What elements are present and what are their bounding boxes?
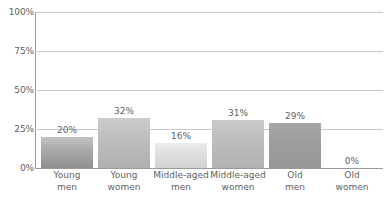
x-label-young-men: Young men [41,170,93,193]
bar-value-label-young-women: 32% [98,107,150,116]
y-tick-label-100: 100% [1,8,34,17]
x-label-young-men-line1: Young [41,170,93,182]
bar-old-men[interactable] [269,123,321,168]
bar-chart: 100% 75% 50% 25% 0% 20% 32% 16% [0,0,390,199]
x-label-middle-aged-women: Middle-aged women [208,170,268,193]
x-label-young-women-line2: women [98,182,150,194]
x-label-old-men-line2: men [269,182,321,194]
y-tick-label-0: 0% [1,164,34,173]
x-label-old-women-line1: Old [326,170,378,182]
y-tick-label-50: 50% [1,86,34,95]
x-label-young-men-line2: men [41,182,93,194]
plot-area: 20% 32% 16% 31% 29% 0% [35,12,383,168]
gridline-50 [35,90,383,91]
x-label-middle-aged-men-line2: men [151,182,211,194]
x-label-old-men-line1: Old [269,170,321,182]
bar-young-women[interactable] [98,118,150,168]
axis-baseline [35,168,383,169]
bar-middle-aged-women[interactable] [212,120,264,168]
gridline-100 [35,12,383,13]
bar-value-label-young-men: 20% [41,126,93,135]
bar-value-label-middle-aged-men: 16% [155,132,207,141]
x-label-young-women-line1: Young [98,170,150,182]
x-label-old-women-line2: women [326,182,378,194]
y-tick-label-75: 75% [1,47,34,56]
bar-young-men[interactable] [41,137,93,168]
x-label-middle-aged-women-line1: Middle-aged [208,170,268,182]
bar-value-label-old-men: 29% [269,112,321,121]
bar-value-label-middle-aged-women: 31% [212,109,264,118]
x-label-middle-aged-men-line1: Middle-aged [151,170,211,182]
x-label-young-women: Young women [98,170,150,193]
x-axis-category-labels: Young men Young women Middle-aged men Mi… [35,170,383,199]
y-tick-label-25: 25% [1,125,34,134]
x-label-old-men: Old men [269,170,321,193]
bar-value-label-old-women: 0% [326,157,378,166]
x-label-middle-aged-men: Middle-aged men [151,170,211,193]
x-label-old-women: Old women [326,170,378,193]
bar-middle-aged-men[interactable] [155,143,207,168]
gridline-75 [35,51,383,52]
x-label-middle-aged-women-line2: women [208,182,268,194]
